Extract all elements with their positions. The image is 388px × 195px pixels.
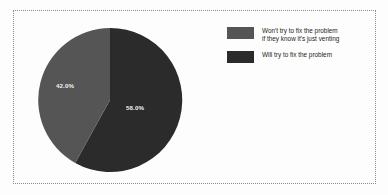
pie-graphic[interactable] bbox=[34, 24, 186, 176]
legend-label-wont-fix: Won't try to fix the problem if they kno… bbox=[262, 27, 339, 44]
legend-label-will-fix: Will try to fix the problem bbox=[262, 51, 332, 59]
legend-swatch-icon-wont-fix bbox=[227, 27, 254, 39]
legend-entry-will-fix[interactable]: Will try to fix the problem bbox=[227, 51, 377, 63]
legend-swatch-icon-will-fix bbox=[227, 51, 254, 63]
pie-chart-object[interactable]: 42.0% 58.0% Won't try to fix the problem… bbox=[0, 0, 388, 195]
plot-area: 42.0% 58.0% Won't try to fix the problem… bbox=[0, 0, 388, 195]
legend-entry-wont-fix[interactable]: Won't try to fix the problem if they kno… bbox=[227, 27, 377, 44]
pie-label-wont-fix: 42.0% bbox=[56, 82, 74, 89]
pie-label-will-fix: 58.0% bbox=[126, 104, 144, 111]
chart-legend[interactable]: Won't try to fix the problem if they kno… bbox=[227, 27, 377, 70]
